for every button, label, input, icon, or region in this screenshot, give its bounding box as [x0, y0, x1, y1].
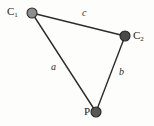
vertex-label-c1-sub: 1 — [14, 11, 18, 19]
edge-label-b: b — [119, 67, 124, 77]
vertex-node-c1 — [27, 8, 37, 18]
edge-line-c — [32, 13, 125, 36]
edge-line-a — [32, 13, 96, 112]
edge-label-a: a — [51, 62, 56, 72]
vertex-label-c2: C2 — [133, 30, 144, 41]
geometry-figure: C1 C2 P a b c — [0, 0, 154, 126]
edge-label-c: c — [82, 8, 86, 18]
vertex-label-p-main: P — [84, 105, 90, 117]
vertex-label-c2-sub: 2 — [140, 35, 144, 43]
vertex-node-c2 — [120, 31, 130, 41]
figure-canvas — [0, 0, 154, 126]
vertex-node-p — [91, 107, 101, 117]
vertex-label-c1: C1 — [7, 6, 18, 17]
vertex-label-p: P — [84, 106, 90, 117]
